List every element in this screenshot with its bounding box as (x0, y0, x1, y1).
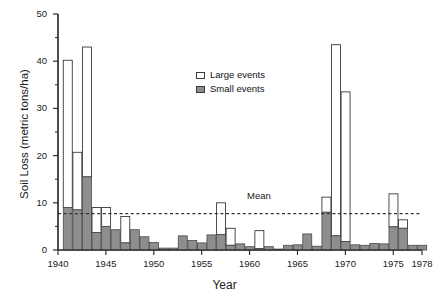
bar-segment-small-events (389, 227, 398, 250)
bar-group (399, 220, 408, 250)
bar-segment-small-events (360, 245, 369, 250)
bar-segment-small-events (341, 242, 350, 250)
bar-group (341, 92, 350, 250)
bar-group (150, 242, 159, 250)
bar-segment-large-events (389, 194, 398, 227)
bar-segment-small-events (312, 246, 321, 250)
bar-segment-small-events (226, 245, 235, 250)
bar-segment-small-events (102, 226, 111, 250)
bar-segment-small-events (121, 243, 130, 250)
x-tick-label: 1940 (38, 258, 78, 269)
bar-segment-large-events (73, 152, 82, 210)
bar-group (284, 245, 293, 250)
bar-group (312, 246, 321, 250)
bar-segment-small-events (73, 210, 82, 250)
bar-group (303, 234, 312, 250)
y-tick-label: 30 (25, 102, 47, 113)
bar-segment-small-events (399, 228, 408, 250)
bar-segment-small-events (370, 243, 379, 250)
bar-segment-small-events (284, 245, 293, 250)
bar-group (121, 216, 130, 250)
bar-segment-small-events (140, 237, 149, 250)
bar-segment-small-events (332, 236, 341, 250)
x-tick-label: 1945 (86, 258, 126, 269)
bar-group (379, 244, 388, 250)
bar-segment-large-events (341, 92, 350, 242)
bar-segment-small-events (130, 230, 139, 250)
bar-segment-small-events (207, 235, 216, 250)
bar-group (360, 245, 369, 250)
bar-group (226, 228, 235, 250)
bar-segment-large-events (255, 231, 264, 249)
y-tick-label: 40 (25, 55, 47, 66)
bar-group (293, 245, 302, 250)
x-tick-label: 1965 (277, 258, 317, 269)
bar-segment-large-events (92, 208, 101, 233)
bar-segment-small-events (351, 245, 360, 250)
bar-segment-small-events (111, 230, 120, 250)
bar-group (73, 152, 82, 250)
bar-group (408, 245, 417, 250)
bar-group (255, 231, 264, 250)
bar-segment-small-events (293, 245, 302, 250)
x-tick-label: 1955 (182, 258, 222, 269)
bar-segment-small-events (322, 212, 331, 250)
x-tick-label: 1970 (325, 258, 365, 269)
bar-group (82, 47, 91, 250)
bar-segment-large-events (82, 47, 91, 177)
y-tick-label: 10 (25, 197, 47, 208)
bar-segment-large-events (102, 208, 111, 227)
bar-group (197, 243, 206, 250)
bar-group (63, 60, 72, 250)
bar-group (217, 203, 226, 250)
bar-segment-small-events (197, 243, 206, 250)
bar-group (322, 197, 331, 250)
bar-group (130, 230, 139, 250)
bar-segment-large-events (399, 220, 408, 228)
bar-segment-small-events (150, 242, 159, 250)
y-tick-label: 0 (25, 244, 47, 255)
bar-segment-small-events (188, 241, 197, 250)
bar-segment-large-events (121, 216, 130, 242)
bar-segment-small-events (92, 233, 101, 250)
bar-group (418, 245, 427, 250)
bar-segment-small-events (379, 244, 388, 250)
bar-group (389, 194, 398, 250)
bar-segment-large-events (63, 60, 72, 207)
bar-segment-small-events (408, 245, 417, 250)
y-tick-label: 20 (25, 150, 47, 161)
bar-segment-small-events (418, 245, 427, 250)
bar-segment-small-events (303, 234, 312, 250)
bar-segment-large-events (217, 203, 226, 235)
bar-group (370, 243, 379, 250)
y-tick-label: 50 (25, 8, 47, 19)
bar-segment-small-events (236, 244, 245, 250)
bar-group (236, 244, 245, 250)
x-tick-label: 1950 (134, 258, 174, 269)
x-tick-label: 1978 (402, 258, 437, 269)
bar-group (332, 45, 341, 250)
bar-group (111, 230, 120, 250)
bar-segment-small-events (217, 234, 226, 250)
x-tick-label: 1960 (230, 258, 270, 269)
bar-segment-large-events (226, 228, 235, 245)
bar-group (178, 236, 187, 250)
bar-group (140, 237, 149, 250)
bar-group (351, 245, 360, 250)
bar-segment-large-events (332, 45, 341, 236)
bar-group (207, 235, 216, 250)
bar-group (188, 241, 197, 250)
bar-segment-small-events (178, 236, 187, 250)
bar-segment-large-events (322, 197, 331, 212)
